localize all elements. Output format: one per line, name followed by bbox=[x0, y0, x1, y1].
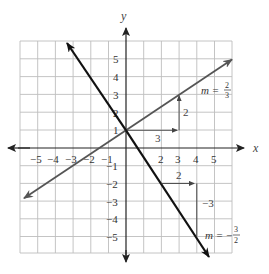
svg-text:5: 5 bbox=[113, 53, 119, 65]
svg-text:4: 4 bbox=[193, 153, 199, 165]
run-label-gray: 3 bbox=[155, 132, 161, 144]
slope-label-two-thirds: m = 2 3 bbox=[201, 81, 231, 100]
svg-text:−2: −2 bbox=[106, 178, 118, 190]
coordinate-plane: x y −5 −4 −3 −2 −1 2 3 4 5 5 4 3 2 1 −1 … bbox=[0, 0, 269, 274]
x-axis-label: x bbox=[252, 141, 259, 155]
svg-text:−1: −1 bbox=[106, 160, 118, 172]
svg-text:2: 2 bbox=[234, 236, 238, 245]
svg-text:−4: −4 bbox=[47, 153, 59, 165]
svg-text:4: 4 bbox=[113, 71, 119, 83]
x-tick-labels: −5 −4 −3 −2 −1 2 3 4 5 bbox=[30, 153, 217, 165]
svg-text:−5: −5 bbox=[30, 153, 42, 165]
rise-label-black: −3 bbox=[202, 197, 214, 209]
rise-label-gray: 2 bbox=[183, 106, 189, 118]
svg-text:−5: −5 bbox=[106, 231, 118, 243]
svg-text:1: 1 bbox=[113, 124, 119, 136]
svg-text:m =: m = bbox=[201, 84, 219, 96]
slope-label-neg-three-halves: m = − 3 2 bbox=[205, 225, 240, 245]
svg-text:2: 2 bbox=[158, 153, 164, 165]
line-slope-neg-three-halves bbox=[67, 43, 209, 257]
svg-text:3: 3 bbox=[113, 89, 119, 101]
svg-text:5: 5 bbox=[211, 153, 217, 165]
svg-text:m = −: m = − bbox=[205, 229, 233, 241]
svg-text:3: 3 bbox=[175, 153, 181, 165]
svg-text:3: 3 bbox=[234, 225, 238, 234]
y-axis-label: y bbox=[120, 9, 127, 23]
svg-text:3: 3 bbox=[225, 91, 229, 100]
svg-text:−3: −3 bbox=[106, 196, 118, 208]
run-label-black: 2 bbox=[176, 169, 182, 181]
svg-text:2: 2 bbox=[225, 81, 229, 90]
svg-text:−4: −4 bbox=[106, 213, 118, 225]
